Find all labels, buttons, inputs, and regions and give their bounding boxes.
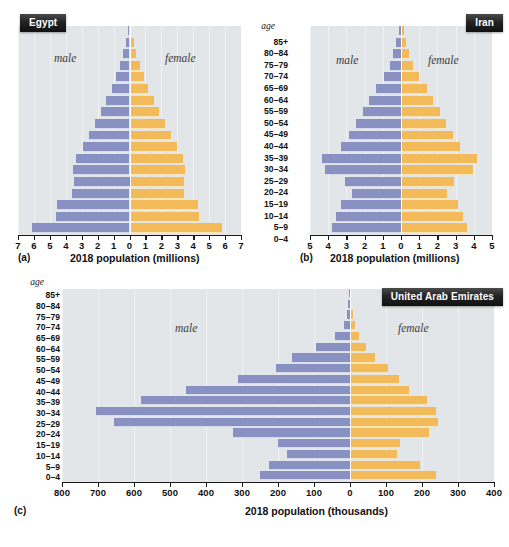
female-bar: [401, 84, 427, 94]
male-bar: [345, 177, 401, 187]
age-group-label: 65–69: [36, 334, 60, 343]
axis-tick-label: 2: [435, 240, 440, 251]
female-bar: [401, 72, 419, 82]
male-label-egypt: male: [54, 52, 76, 64]
female-bar: [350, 461, 420, 470]
female-bar: [130, 84, 149, 94]
x-axis-uae: 8007006005004003002001000100200300400: [62, 482, 494, 502]
female-bar: [350, 439, 400, 448]
age-group-label: 50–54: [36, 366, 60, 375]
axis-tick-label: 0: [398, 240, 403, 251]
age-group-label: 55–59: [36, 355, 60, 364]
female-bar: [130, 200, 198, 210]
male-bar: [341, 200, 401, 210]
age-group-label: 60–64: [36, 345, 60, 354]
axis-tick-label: 5: [307, 240, 312, 251]
axis-tick-label: 2: [95, 240, 100, 251]
male-bar: [369, 96, 401, 106]
male-bar: [238, 375, 350, 384]
axis-tick-label: 3: [344, 240, 349, 251]
male-bar: [390, 61, 401, 71]
axis-tick-label: 0: [127, 240, 132, 251]
female-bar: [401, 165, 473, 175]
male-bar: [83, 142, 130, 152]
axis-tick-label: 1: [111, 240, 116, 251]
male-bar: [341, 142, 401, 152]
age-group-label: 60–64: [264, 96, 288, 105]
pyramid-row: [62, 310, 494, 319]
pyramid-row: [62, 450, 494, 459]
age-group-label: 10–14: [264, 212, 288, 221]
pyramid-row: [62, 386, 494, 395]
female-bar: [130, 131, 172, 141]
male-bar: [116, 72, 130, 82]
female-bar: [130, 177, 184, 187]
country-badge-uae: United Arab Emirates: [382, 288, 503, 306]
axis-tick-label: 1: [417, 240, 422, 251]
male-bar: [186, 386, 350, 395]
male-bar: [260, 471, 350, 480]
axis-tick-label: 400: [486, 487, 502, 498]
axis-tick-label: 100: [306, 487, 322, 498]
axis-tick-label: 400: [198, 487, 214, 498]
female-bar: [350, 364, 388, 373]
axis-tick-label: 1: [143, 240, 148, 251]
age-group-label: 35–39: [36, 398, 60, 407]
pyramid-row: [62, 353, 494, 362]
male-bar: [322, 154, 401, 164]
pyramid-row: [62, 364, 494, 373]
male-label-uae: male: [175, 322, 197, 334]
axis-tick-label: 5: [489, 240, 494, 251]
age-group-label: 85+: [273, 38, 288, 47]
male-bar: [325, 165, 401, 175]
male-bar: [76, 154, 129, 164]
male-bar: [89, 131, 130, 141]
age-group-label: 45–49: [264, 130, 288, 139]
axis-tick-label: 4: [63, 240, 68, 251]
axis-tick-label: 100: [378, 487, 394, 498]
axis-tick-label: 7: [15, 240, 20, 251]
age-label-column-bottom: age 85+80–8475–7970–7465–6960–6455–5950–…: [14, 278, 60, 483]
age-group-label: 70–74: [264, 72, 288, 81]
male-bar: [349, 131, 401, 141]
country-badge-egypt: Egypt: [20, 14, 66, 32]
male-bar: [384, 72, 401, 82]
female-bar: [130, 165, 186, 175]
panel-iran: Iran male female 54321012345 2018 popula…: [288, 0, 509, 270]
male-bar: [344, 321, 350, 330]
male-bar: [363, 107, 401, 117]
age-group-label: 35–39: [264, 154, 288, 163]
axis-tick-label: 500: [162, 487, 178, 498]
center-axis-line: [350, 289, 351, 482]
axis-tick-label: 0: [347, 487, 352, 498]
female-bar: [350, 332, 359, 341]
female-bar: [130, 189, 185, 199]
female-bar: [350, 450, 397, 459]
female-bar: [401, 212, 463, 222]
male-bar: [316, 343, 350, 352]
age-group-label: 45–49: [36, 377, 60, 386]
axis-tick-label: 6: [222, 240, 227, 251]
female-bar: [401, 131, 453, 141]
age-group-label: 85+: [45, 291, 60, 300]
male-bar: [336, 212, 401, 222]
female-bar: [401, 119, 446, 129]
pyramid-row: [62, 418, 494, 427]
pyramid-row: [62, 396, 494, 405]
age-group-label: 40–44: [264, 142, 288, 151]
male-bar: [73, 165, 130, 175]
axis-tick-label: 700: [90, 487, 106, 498]
age-group-label: 50–54: [264, 119, 288, 128]
female-bar: [401, 189, 447, 199]
age-group-label: 75–79: [36, 313, 60, 322]
age-group-label: 40–44: [36, 388, 60, 397]
axis-tick-label: 200: [414, 487, 430, 498]
female-label-uae: female: [398, 322, 429, 334]
female-label-iran: female: [428, 54, 459, 66]
male-bar: [114, 418, 350, 427]
male-bar: [278, 439, 350, 448]
male-bar: [356, 119, 401, 129]
age-group-label: 80–84: [36, 302, 60, 311]
axis-tick-label: 7: [238, 240, 243, 251]
axis-tick-label: 3: [453, 240, 458, 251]
